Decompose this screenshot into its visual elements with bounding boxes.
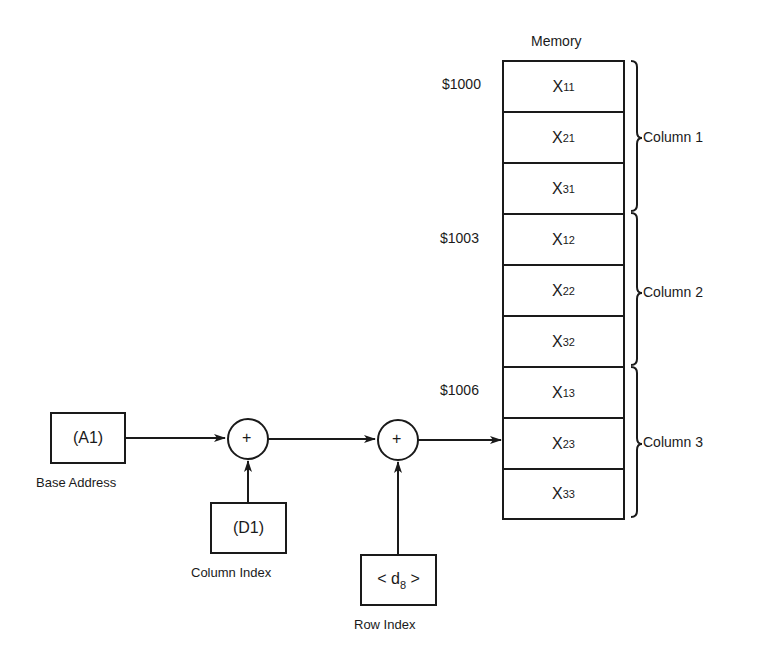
memory-cell-x33: X33: [502, 468, 625, 520]
memory-cell-x21: X21: [502, 111, 625, 162]
brace-column-2: [631, 213, 642, 365]
base-address-caption: Base Address: [36, 475, 116, 490]
memory-title: Memory: [531, 33, 582, 49]
memory-cell-x31: X31: [502, 162, 625, 213]
memory-cell-x22: X22: [502, 264, 625, 315]
row-index-register: < d8 >: [360, 554, 437, 606]
row-index-register-text: < d8 >: [377, 570, 420, 591]
address-label-1006: $1006: [440, 382, 479, 398]
memory-cell-x32: X32: [502, 315, 625, 366]
base-address-register-text: (A1): [73, 429, 103, 447]
column-index-register: (D1): [210, 502, 287, 554]
adder-plus-2: +: [392, 430, 401, 448]
adder-plus-1: +: [242, 429, 251, 447]
memory-cell-x12: X12: [502, 213, 625, 264]
memory-cell-x23: X23: [502, 417, 625, 468]
group-label-column-1: Column 1: [643, 129, 703, 145]
column-index-register-text: (D1): [233, 519, 264, 537]
base-address-register: (A1): [50, 412, 126, 464]
brace-column-1: [631, 61, 642, 211]
memory-cell-x11: X11: [502, 60, 625, 111]
row-index-caption: Row Index: [354, 617, 415, 632]
address-label-1003: $1003: [440, 230, 479, 246]
group-label-column-3: Column 3: [643, 434, 703, 450]
memory-cell-x13: X13: [502, 366, 625, 417]
address-label-1000: $1000: [442, 76, 481, 92]
group-label-column-2: Column 2: [643, 284, 703, 300]
brace-column-3: [631, 367, 642, 517]
column-index-caption: Column Index: [191, 565, 271, 580]
